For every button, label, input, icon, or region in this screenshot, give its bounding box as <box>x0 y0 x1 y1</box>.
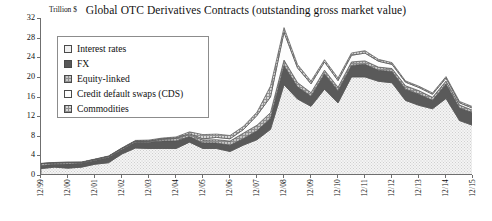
x-axis-tick-mark <box>229 175 230 178</box>
x-axis-tick-label: 12/11 <box>360 179 369 197</box>
legend-item-label: Credit default swaps (CDS) <box>77 89 183 99</box>
x-axis-tick-label: 12/08 <box>279 179 288 197</box>
legend-item-label: Equity-linked <box>77 74 130 84</box>
x-axis-tick-mark <box>472 175 473 178</box>
y-axis-tick-label: 28 <box>5 34 35 42</box>
x-axis-tick-label: 12/06 <box>225 179 234 197</box>
y-axis-tick-label: 16 <box>5 93 35 101</box>
x-axis-tick-label: 12/00 <box>63 179 72 197</box>
legend: Interest ratesFXEquity-linkedCredit defa… <box>57 36 209 118</box>
y-axis-tick-label: 12 <box>5 112 35 120</box>
legend-swatch-commodities <box>64 105 72 113</box>
x-axis-tick-label: 12/09 <box>306 179 315 197</box>
chart-title: Global OTC Derivatives Contracts (outsta… <box>0 4 492 16</box>
x-axis-tick-mark <box>310 175 311 178</box>
x-axis-tick-label: 12/04 <box>171 179 180 197</box>
y-axis-tick-label: 4 <box>5 151 35 159</box>
x-axis-tick-label: 12/01 <box>90 179 99 197</box>
legend-item: FX <box>64 56 208 71</box>
x-axis-tick-mark <box>40 175 41 178</box>
x-axis-tick-label: 12/14 <box>441 179 450 197</box>
legend-item: Equity-linked <box>64 71 208 86</box>
x-axis-tick-mark <box>202 175 203 178</box>
y-axis-tick-label: 32 <box>5 14 35 22</box>
x-axis-tick-mark <box>67 175 68 178</box>
x-axis-tick-label: 12/07 <box>252 179 261 197</box>
x-axis-tick-mark <box>391 175 392 178</box>
x-axis-tick-mark <box>283 175 284 178</box>
y-axis-tick-label: 24 <box>5 53 35 61</box>
legend-item-label: Commodities <box>77 104 129 114</box>
x-axis-tick-label: 12/99 <box>36 179 45 197</box>
x-axis-tick-mark <box>256 175 257 178</box>
y-axis-tick-label: 20 <box>5 73 35 81</box>
x-axis-tick-mark <box>445 175 446 178</box>
x-axis-tick-mark <box>337 175 338 178</box>
x-axis-tick-label: 12/03 <box>144 179 153 197</box>
x-axis-tick-label: 12/15 <box>468 179 477 197</box>
chart-container: Trillion $ Global OTC Derivatives Contra… <box>0 0 492 221</box>
legend-item: Commodities <box>64 101 208 116</box>
x-axis-tick-label: 12/13 <box>414 179 423 197</box>
legend-swatch-fx <box>64 60 72 68</box>
x-axis-tick-label: 12/12 <box>387 179 396 197</box>
legend-item: Interest rates <box>64 41 208 56</box>
x-axis-tick-mark <box>94 175 95 178</box>
y-axis-tick-label: 0 <box>5 171 35 179</box>
x-axis-tick-label: 12/02 <box>117 179 126 197</box>
x-axis-tick-mark <box>121 175 122 178</box>
x-axis-tick-mark <box>148 175 149 178</box>
legend-swatch-cds <box>64 90 72 98</box>
y-axis-tick-label: 8 <box>5 132 35 140</box>
legend-swatch-interest-rates <box>64 45 72 53</box>
x-axis-tick-mark <box>418 175 419 178</box>
x-axis-tick-mark <box>364 175 365 178</box>
x-axis-tick-label: 12/10 <box>333 179 342 197</box>
legend-item-label: Interest rates <box>77 44 126 54</box>
x-axis-tick-label: 12/05 <box>198 179 207 197</box>
x-axis-tick-mark <box>175 175 176 178</box>
legend-item-label: FX <box>77 59 89 69</box>
legend-item: Credit default swaps (CDS) <box>64 86 208 101</box>
legend-swatch-equity-linked <box>64 75 72 83</box>
